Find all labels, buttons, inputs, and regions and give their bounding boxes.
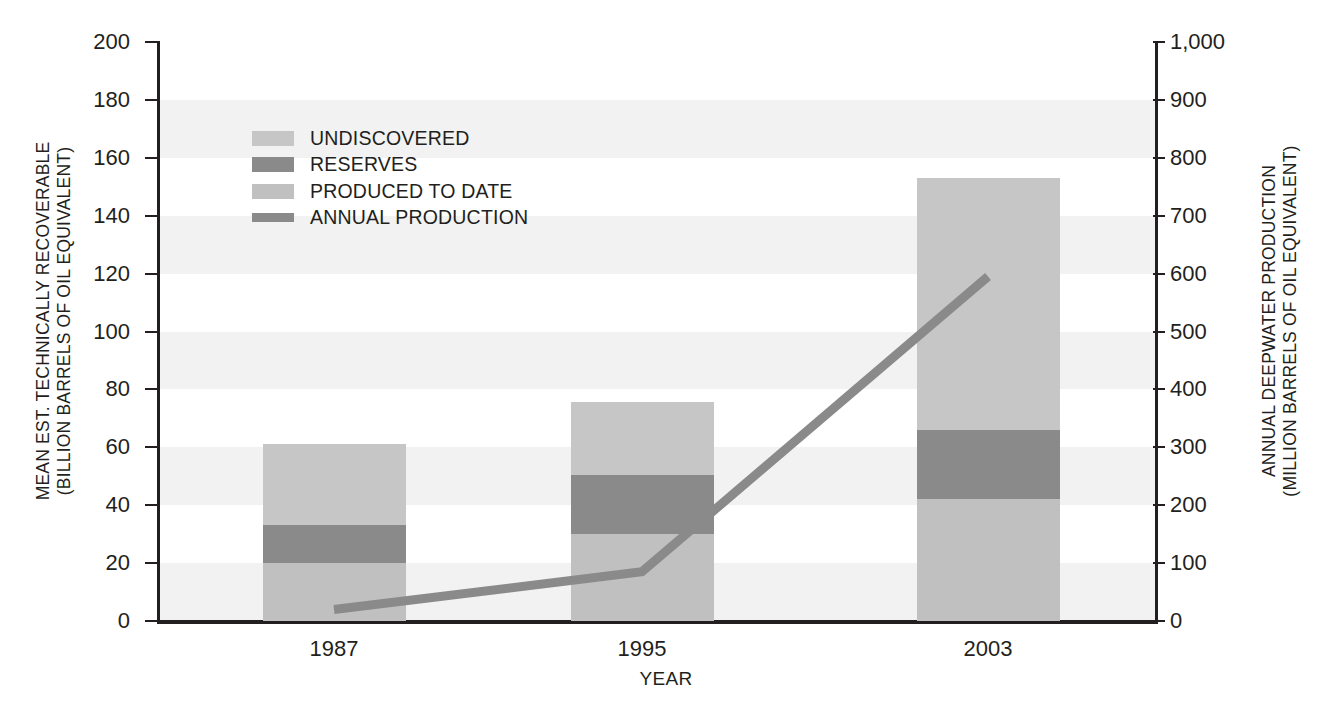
y-axis-right-tick-label: 200 bbox=[1170, 494, 1270, 516]
legend-item[interactable]: PRODUCED TO DATE bbox=[252, 178, 528, 205]
y-axis-right-title-line2: (MILLION BARRELS OF OIL EQUIVALENT) bbox=[1280, 1, 1301, 641]
y-axis-left-tick-label: 40 bbox=[44, 494, 130, 516]
y-axis-left-tick bbox=[145, 562, 157, 564]
y-axis-left-tick-label: 20 bbox=[44, 552, 130, 574]
chart-legend: UNDISCOVEREDRESERVESPRODUCED TO DATEANNU… bbox=[252, 125, 528, 231]
legend-item-label: PRODUCED TO DATE bbox=[310, 180, 513, 203]
y-axis-left-tick bbox=[145, 41, 157, 43]
legend-swatch-produced-icon bbox=[252, 184, 294, 199]
legend-item[interactable]: ANNUAL PRODUCTION bbox=[252, 205, 528, 232]
y-axis-right-tick-label: 700 bbox=[1170, 205, 1270, 227]
chart-container: MEAN EST. TECHNICALLY RECOVERABLE (BILLI… bbox=[0, 0, 1332, 711]
legend-item[interactable]: UNDISCOVERED bbox=[252, 125, 528, 152]
y-axis-left-tick bbox=[145, 157, 157, 159]
legend-item[interactable]: RESERVES bbox=[252, 152, 528, 179]
legend-swatch-undiscovered-icon bbox=[252, 131, 294, 146]
y-axis-left-tick bbox=[145, 504, 157, 506]
y-axis-left-tick-label: 140 bbox=[44, 205, 130, 227]
legend-item-label: ANNUAL PRODUCTION bbox=[310, 206, 528, 229]
y-axis-right-tick-label: 400 bbox=[1170, 378, 1270, 400]
y-axis-left-tick bbox=[145, 331, 157, 333]
x-axis-tick-label: 1995 bbox=[542, 636, 742, 662]
x-axis-tick-label: 2003 bbox=[888, 636, 1088, 662]
y-axis-left-tick bbox=[145, 273, 157, 275]
y-axis-left-tick-label: 180 bbox=[44, 89, 130, 111]
legend-swatch-annual-icon bbox=[252, 213, 294, 222]
y-axis-right-tick-label: 0 bbox=[1170, 610, 1270, 632]
y-axis-right-tick-label: 300 bbox=[1170, 436, 1270, 458]
y-axis-left-tick bbox=[145, 620, 157, 622]
y-axis-left-tick-label: 0 bbox=[44, 610, 130, 632]
y-axis-right-tick-label: 500 bbox=[1170, 321, 1270, 343]
y-axis-right-tick-label: 800 bbox=[1170, 147, 1270, 169]
y-axis-left-tick-label: 160 bbox=[44, 147, 130, 169]
y-axis-right-tick-label: 600 bbox=[1170, 263, 1270, 285]
y-axis-left-tick-label: 200 bbox=[44, 31, 130, 53]
x-axis-title: YEAR bbox=[0, 668, 1332, 690]
legend-item-label: RESERVES bbox=[310, 153, 417, 176]
y-axis-left-tick bbox=[145, 99, 157, 101]
y-axis-left-tick bbox=[145, 446, 157, 448]
legend-swatch-reserves-icon bbox=[252, 157, 294, 172]
y-axis-left-tick-label: 60 bbox=[44, 436, 130, 458]
y-axis-left-tick-label: 80 bbox=[44, 378, 130, 400]
y-axis-right-tick-label: 100 bbox=[1170, 552, 1270, 574]
y-axis-right-tick-label: 900 bbox=[1170, 89, 1270, 111]
y-axis-left-tick-label: 120 bbox=[44, 263, 130, 285]
y-axis-right-tick-label: 1,000 bbox=[1170, 31, 1270, 53]
y-axis-left-tick bbox=[145, 215, 157, 217]
y-axis-left-tick-label: 100 bbox=[44, 321, 130, 343]
x-axis-tick-label: 1987 bbox=[234, 636, 434, 662]
y-axis-left-tick bbox=[145, 388, 157, 390]
legend-item-label: UNDISCOVERED bbox=[310, 127, 470, 150]
